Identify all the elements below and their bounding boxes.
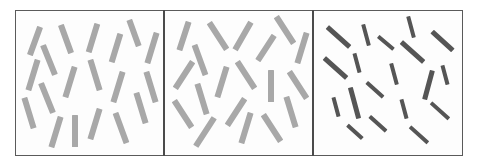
panel-divider bbox=[163, 10, 165, 156]
oriented-bar bbox=[268, 70, 274, 102]
oriented-bar bbox=[72, 115, 78, 147]
panel-divider bbox=[312, 10, 314, 156]
